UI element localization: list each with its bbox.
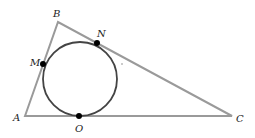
label-c: C [236, 113, 244, 124]
point-m [40, 61, 46, 67]
label-n: N [96, 28, 107, 39]
label-a: A [12, 112, 20, 123]
triangle-abc [25, 22, 232, 116]
label-o: O [75, 123, 83, 134]
label-m: M [29, 57, 41, 68]
point-n [94, 40, 100, 46]
inscribed-circle [43, 42, 117, 116]
geometry-diagram: B N M A O C [0, 0, 255, 138]
faint-dot [121, 63, 123, 65]
point-o [76, 113, 82, 119]
label-b: B [52, 8, 60, 19]
